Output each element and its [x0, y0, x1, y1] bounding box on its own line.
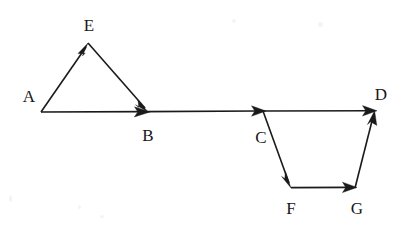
scan-speck	[232, 19, 236, 23]
scan-speck	[100, 215, 104, 218]
arrow-head-at-f	[282, 171, 291, 188]
edge-f-to-g	[291, 182, 357, 192]
arrow-head-at-e	[78, 43, 88, 56]
node-label-f: F	[286, 200, 295, 217]
scan-speck	[318, 22, 323, 27]
edge-b-to-c	[146, 106, 266, 116]
edge-a-to-b	[41, 107, 150, 117]
edge-line-c-f	[263, 111, 289, 183]
edge-line-a-e	[41, 47, 86, 112]
node-label-c: C	[255, 129, 266, 146]
scan-speck	[78, 205, 81, 209]
edge-c-to-f	[263, 111, 291, 188]
node-label-g: G	[351, 200, 363, 217]
graph-svg	[0, 0, 405, 227]
edge-g-to-d	[355, 111, 377, 188]
node-label-b: B	[142, 127, 153, 144]
diagram-canvas: A E B C D F G	[0, 0, 405, 227]
edge-line-g-d	[355, 117, 373, 188]
edge-a-to-e	[41, 43, 88, 112]
edge-line-e-b	[88, 43, 145, 108]
edge-line-b-c	[146, 111, 258, 112]
scan-speck	[9, 195, 12, 202]
node-label-e: E	[84, 17, 94, 34]
node-label-d: D	[375, 86, 387, 103]
edge-c-to-d	[263, 106, 377, 116]
node-label-a: A	[23, 88, 35, 105]
edge-e-to-b	[88, 43, 148, 112]
